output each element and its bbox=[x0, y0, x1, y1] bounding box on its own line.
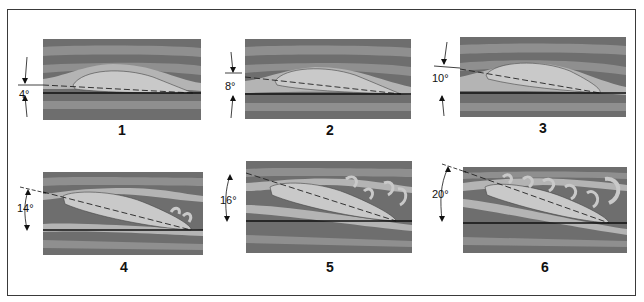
panel-4 bbox=[43, 172, 203, 255]
panel-2 bbox=[245, 39, 411, 119]
panel-label-1: 1 bbox=[102, 122, 142, 138]
panel-label-3: 3 bbox=[523, 120, 563, 136]
panel-6 bbox=[463, 167, 627, 253]
flow-visualization-5 bbox=[246, 161, 412, 253]
angle-label-3: 10° bbox=[432, 72, 449, 84]
panel-label-2: 2 bbox=[310, 122, 350, 138]
angle-label-1: 4° bbox=[19, 88, 30, 100]
flow-visualization-3 bbox=[460, 37, 626, 117]
panel-1 bbox=[43, 39, 201, 120]
flow-visualization-2 bbox=[245, 39, 411, 119]
angle-label-5: 16° bbox=[220, 194, 237, 206]
angle-label-2: 8° bbox=[225, 80, 236, 92]
angle-label-6: 20° bbox=[432, 188, 449, 200]
flow-visualization-1 bbox=[43, 39, 201, 120]
panel-3 bbox=[460, 37, 626, 117]
flow-visualization-4 bbox=[43, 172, 203, 255]
panel-label-4: 4 bbox=[104, 259, 144, 275]
flow-visualization-6 bbox=[463, 167, 627, 253]
panel-label-5: 5 bbox=[310, 259, 350, 275]
angle-label-4: 14° bbox=[17, 202, 34, 214]
panel-5 bbox=[246, 161, 412, 253]
panel-label-6: 6 bbox=[525, 259, 565, 275]
